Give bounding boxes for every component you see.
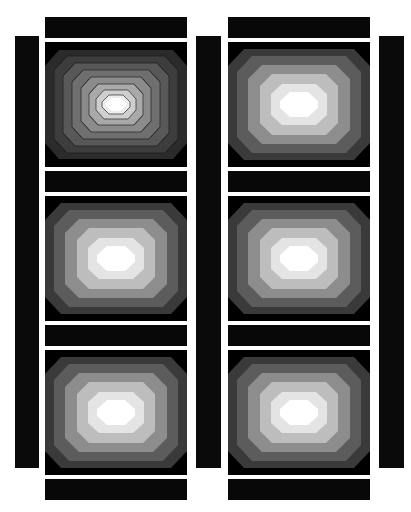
label-bar-mid2-left [45, 325, 187, 346]
contour-panel-r1c2[interactable] [228, 42, 370, 167]
contour-field-r3c2 [228, 350, 370, 475]
label-bar-mid1-right [228, 171, 370, 192]
contour-field-r2c2 [228, 196, 370, 321]
contour-panel-r3c2[interactable] [228, 350, 370, 475]
label-bar-mid1-left [45, 171, 187, 192]
contour-panel-r1c1[interactable] [45, 42, 187, 167]
contour-field-r1c2 [228, 42, 370, 167]
contour-field-r2c1 [45, 196, 187, 321]
contour-field-r3c1 [45, 350, 187, 475]
figure-canvas [0, 0, 411, 512]
contour-field-r1c1 [45, 42, 187, 167]
colorbar-right[interactable] [379, 36, 404, 468]
label-bar-mid2-right [228, 325, 370, 346]
label-bar-bottom-left [45, 479, 187, 500]
label-bar-top-left [45, 17, 187, 38]
contour-panel-r3c1[interactable] [45, 350, 187, 475]
clipped-title-text [34, 0, 94, 4]
label-bar-bottom-right [228, 479, 370, 500]
contour-panel-r2c1[interactable] [45, 196, 187, 321]
colorbar-left[interactable] [15, 36, 39, 468]
contour-panel-r2c2[interactable] [228, 196, 370, 321]
colorbar-center[interactable] [196, 36, 221, 468]
label-bar-top-right [228, 17, 370, 38]
